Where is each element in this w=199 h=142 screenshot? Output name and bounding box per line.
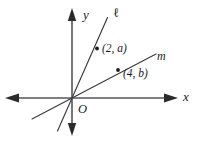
point-b-marker [116, 68, 120, 72]
figure-canvas [0, 0, 199, 142]
point-b-label: (4, b) [123, 68, 148, 80]
line-m-label: m [157, 50, 166, 62]
x-axis-label: x [183, 90, 189, 103]
origin-label: O [78, 103, 87, 116]
point-a-label: (2, a) [102, 43, 127, 55]
coordinate-plane-figure: y x ℓ m (2, a) (4, b) O [0, 0, 199, 142]
y-axis-top-arrow-icon [68, 8, 76, 21]
x-axis-left-arrow-icon [5, 94, 19, 103]
line-l-label: ℓ [113, 6, 119, 19]
y-axis-label: y [83, 8, 89, 21]
y-axis-bottom-arrow-icon [68, 123, 76, 136]
point-a-marker [95, 47, 99, 51]
line-m-path [32, 54, 156, 119]
x-axis-right-arrow-icon [164, 94, 178, 103]
